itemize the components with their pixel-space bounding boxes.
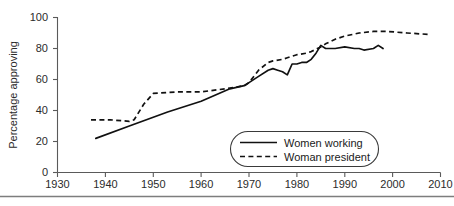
x-tick-label-1990: 1990 — [333, 178, 357, 190]
x-tick-label-2010: 2010 — [428, 178, 452, 190]
y-tick-label-0: 0 — [42, 166, 48, 178]
y-tick-label-80: 80 — [36, 42, 48, 54]
x-tick-label-1980: 1980 — [285, 178, 309, 190]
approval-trend-line-chart: 0 20 40 60 80 100 1930 1940 1950 1960 19… — [0, 0, 454, 206]
x-tick-label-1970: 1970 — [237, 178, 261, 190]
x-tick-label-1960: 1960 — [189, 178, 213, 190]
legend-label-women-working: Women working — [284, 137, 363, 149]
legend-label-woman-president: Woman president — [284, 151, 370, 163]
x-tick-label-2000: 2000 — [380, 178, 404, 190]
chart-legend[interactable]: Women working Woman president — [231, 132, 379, 167]
y-tick-label-60: 60 — [36, 73, 48, 85]
y-tick-label-100: 100 — [30, 11, 48, 23]
chart-background — [0, 0, 454, 206]
x-axis-tick-labels: 1930 1940 1950 1960 1970 1980 1990 2000 … — [45, 178, 452, 190]
y-axis-title: Percentage approving — [7, 41, 19, 149]
x-tick-label-1950: 1950 — [141, 178, 165, 190]
y-tick-label-40: 40 — [36, 104, 48, 116]
y-tick-label-20: 20 — [36, 135, 48, 147]
x-tick-label-1930: 1930 — [45, 178, 69, 190]
x-tick-label-1940: 1940 — [93, 178, 117, 190]
